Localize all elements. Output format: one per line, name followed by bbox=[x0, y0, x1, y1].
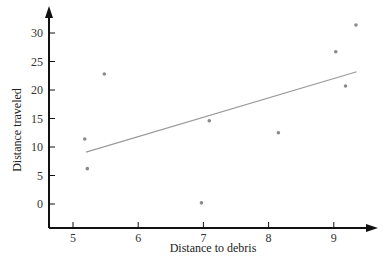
x-tick-label: 6 bbox=[135, 231, 141, 245]
data-point bbox=[200, 201, 204, 205]
data-point bbox=[354, 23, 358, 27]
y-tick-label: 10 bbox=[31, 140, 43, 154]
data-point bbox=[277, 131, 281, 135]
regression-line bbox=[86, 72, 357, 152]
scatter-chart: 56789051015202530 Distance to debris Dis… bbox=[0, 0, 389, 265]
x-tick-label: 8 bbox=[266, 231, 272, 245]
axis-ticks: 56789051015202530 bbox=[31, 26, 337, 245]
data-point bbox=[207, 119, 211, 123]
data-point bbox=[334, 50, 338, 54]
data-series bbox=[83, 23, 358, 204]
x-tick-label: 9 bbox=[331, 231, 337, 245]
data-point bbox=[102, 72, 106, 76]
y-axis-label: Distance traveled bbox=[10, 88, 24, 172]
y-tick-label: 20 bbox=[31, 83, 43, 97]
y-tick-label: 5 bbox=[37, 169, 43, 183]
x-tick-label: 5 bbox=[70, 231, 76, 245]
x-axis-label: Distance to debris bbox=[170, 241, 257, 255]
data-point bbox=[86, 167, 90, 171]
data-point bbox=[344, 84, 348, 88]
y-tick-label: 15 bbox=[31, 112, 43, 126]
y-tick-label: 25 bbox=[31, 55, 43, 69]
axes bbox=[45, 6, 378, 232]
y-axis-arrow-icon bbox=[45, 6, 53, 18]
y-tick-label: 30 bbox=[31, 26, 43, 40]
y-tick-label: 0 bbox=[37, 197, 43, 211]
x-axis-arrow-icon bbox=[366, 224, 378, 232]
data-point bbox=[83, 137, 87, 141]
chart-canvas: 56789051015202530 Distance to debris Dis… bbox=[0, 0, 389, 265]
